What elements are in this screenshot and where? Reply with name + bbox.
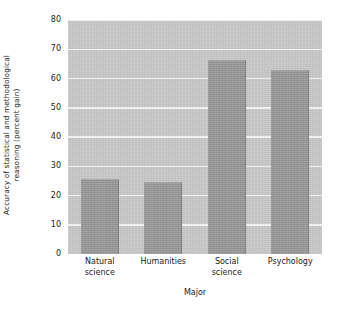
bar: [144, 182, 182, 254]
y-tick-label: 30: [35, 162, 61, 170]
x-tick-label-line: science: [85, 268, 115, 279]
bar-chart-figure: Accuracy of statistical and methodologic…: [0, 0, 339, 312]
bar: [208, 60, 246, 255]
y-axis-label: Accuracy of statistical and methodologic…: [2, 10, 32, 260]
y-tick-label: 50: [35, 104, 61, 112]
y-axis-tick-labels: 01020304050607080: [34, 20, 65, 254]
x-tick-label-line: science: [212, 268, 242, 279]
y-tick-label: 80: [35, 16, 61, 24]
y-tick-label: 10: [35, 221, 61, 229]
y-axis-label-container: Accuracy of statistical and methodologic…: [0, 0, 34, 270]
x-axis-label: Major: [68, 288, 322, 297]
x-tick-label-line: Social: [212, 257, 242, 268]
x-tick-label-line: Psychology: [268, 257, 313, 268]
bar: [81, 179, 119, 254]
y-tick-label: 20: [35, 192, 61, 200]
y-tick-label: 60: [35, 75, 61, 83]
x-axis-tick-labels: NaturalscienceHumanitiesSocialsciencePsy…: [68, 257, 322, 283]
y-tick-label: 0: [35, 250, 61, 258]
y-axis-label-line-2: reasoning (percent gain): [12, 10, 22, 260]
y-axis-label-line-1: Accuracy of statistical and methodologic…: [2, 10, 12, 260]
y-tick-label: 70: [35, 45, 61, 53]
bar: [271, 70, 309, 254]
y-tick-label: 40: [35, 133, 61, 141]
x-tick-label: Psychology: [268, 257, 313, 268]
x-tick-label: Naturalscience: [85, 257, 115, 278]
x-tick-label: Humanities: [140, 257, 186, 268]
x-tick-label-line: Natural: [85, 257, 115, 268]
x-tick-label: Socialscience: [212, 257, 242, 278]
plot-area: [68, 20, 322, 254]
x-tick-label-line: Humanities: [140, 257, 186, 268]
bar-series: [68, 20, 322, 254]
